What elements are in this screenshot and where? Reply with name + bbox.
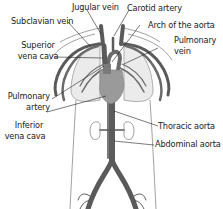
right-kidney [124,122,134,140]
label-jugular-vein: Jugular vein [72,2,119,12]
label-inferior-vena-cava-1: Inferior [8,120,50,130]
label-pulmonary-vein-2: vein [174,46,191,56]
label-superior-vena-cava-1: Superior [12,40,64,50]
label-pulmonary-artery-2: artery [0,102,50,112]
label-carotid-artery: Carotid artery [127,3,182,13]
label-pulmonary-vein-1: Pulmonary [174,35,216,45]
label-arch-of-aorta: Arch of the aorta [148,20,215,30]
vessels [55,26,169,209]
label-inferior-vena-cava-2: vena cava [0,131,50,141]
label-superior-vena-cava-2: vena cava [12,51,64,61]
label-abdominal-aorta: Abdominal aorta [155,139,221,149]
label-thoracic-aorta: Thoracic aorta [158,121,215,131]
heart [100,64,124,104]
left-kidney [90,122,100,140]
label-pulmonary-artery-1: Pulmonary [0,91,50,101]
label-subclavian-vein: Subclavian vein [11,16,73,26]
